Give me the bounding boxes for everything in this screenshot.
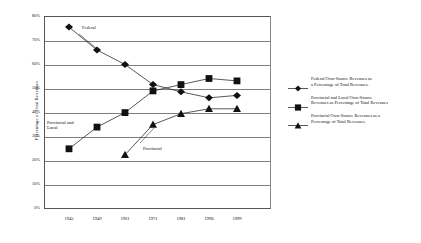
annotation-leaders — [79, 34, 154, 143]
x-tick-label: 1961 — [110, 216, 140, 221]
chart-container: Percentage of Total Revenues 80% 70% 60%… — [0, 0, 421, 243]
diamond-marker-icon — [288, 78, 308, 85]
x-tick-label: 1981 — [166, 216, 196, 221]
annotation-federal: Federal — [82, 25, 96, 30]
legend-label-line2: Revenues as Percentage of Total Revenues — [311, 100, 418, 106]
annotation-provincial: Provincial — [143, 146, 162, 151]
legend-item-federal: Federal Own-Source Revenues as a Percent… — [288, 76, 418, 88]
triangle-marker-icon — [288, 115, 308, 122]
x-tick-label: 1990 — [194, 216, 224, 221]
series-provincial — [121, 105, 241, 158]
legend-item-provincial-local: Provincial and Local Own-Source Revenues… — [288, 95, 418, 107]
square-marker-icon — [288, 97, 308, 104]
x-tick-label: 1949 — [82, 216, 112, 221]
annotation-provincial-local-line2: Local — [47, 125, 57, 130]
legend-item-provincial: Provincial Own-Source Revenues as a Perc… — [288, 113, 418, 125]
chart-legend: Federal Own-Source Revenues as a Percent… — [288, 76, 418, 132]
legend-label-line2: Percentage of Total Revenues. — [311, 119, 418, 125]
x-tick-label: 1971 — [138, 216, 168, 221]
x-tick-label: 1999 — [222, 216, 252, 221]
x-tick-label: 1945 — [54, 216, 84, 221]
legend-label-line2: a Percentage of Total Revenues. — [311, 82, 418, 88]
